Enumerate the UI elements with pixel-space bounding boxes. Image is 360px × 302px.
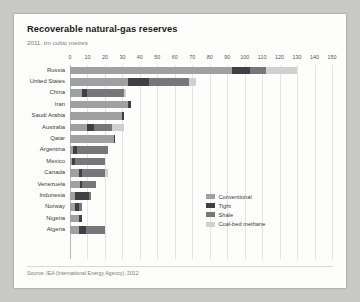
stacked-bar bbox=[70, 89, 126, 97]
bar-segment-shale bbox=[82, 181, 96, 189]
x-axis-tick-label: 20 bbox=[102, 54, 108, 60]
bar-segment-shale bbox=[87, 89, 124, 97]
source-divider bbox=[27, 266, 333, 267]
legend-label: Conventional bbox=[219, 194, 252, 200]
chart-title: Recoverable natural-gas reserves bbox=[27, 24, 177, 34]
stacked-bar bbox=[70, 124, 124, 132]
bar-row: Mexico bbox=[70, 156, 332, 167]
bar-segment-tight bbox=[232, 67, 249, 75]
x-axis: 0102030405060708090100110120130140150 bbox=[70, 54, 332, 65]
bar-segment-conventional bbox=[70, 101, 128, 109]
bar-row: Indonesia bbox=[70, 190, 332, 201]
x-axis-tick-label: 0 bbox=[69, 54, 72, 60]
x-axis-tick-label: 30 bbox=[119, 54, 125, 60]
bar-segment-coalbed bbox=[105, 169, 108, 177]
bar-segment-shale bbox=[94, 124, 111, 132]
stacked-bar bbox=[70, 67, 297, 75]
category-label: Russia bbox=[47, 67, 70, 73]
bar-segment-shale bbox=[250, 67, 266, 75]
x-axis-tick-label: 70 bbox=[189, 54, 195, 60]
source-note: Source: IEA (International Energy Agency… bbox=[27, 270, 333, 276]
legend-item: Coal-bed methane bbox=[206, 220, 265, 229]
x-axis-tick-label: 110 bbox=[258, 54, 267, 60]
category-label: Saudi Arabia bbox=[32, 112, 70, 118]
source-block: Source: IEA (International Energy Agency… bbox=[27, 266, 333, 276]
x-axis-tick-label: 150 bbox=[328, 54, 337, 60]
legend-item: Tight bbox=[206, 201, 265, 210]
bar-segment-shale bbox=[77, 146, 108, 154]
x-axis-tick-label: 80 bbox=[207, 54, 213, 60]
legend-swatch-coalbed bbox=[206, 222, 215, 227]
category-label: Qatar bbox=[50, 135, 70, 141]
bar-row: Australia bbox=[70, 122, 332, 133]
gridline bbox=[332, 65, 333, 259]
bar-row: Russia bbox=[70, 65, 332, 76]
bar-segment-conventional bbox=[70, 135, 114, 143]
x-axis-tick-label: 60 bbox=[172, 54, 178, 60]
bar-row: China bbox=[70, 88, 332, 99]
category-label: Iran bbox=[55, 101, 70, 107]
x-axis-tick-label: 10 bbox=[84, 54, 90, 60]
bar-segment-conventional bbox=[70, 67, 232, 75]
category-label: Nigeria bbox=[46, 215, 70, 221]
bar-segment-shale bbox=[89, 192, 91, 200]
bar-segment-tight bbox=[114, 135, 116, 143]
chart-legend: ConventionalTightShaleCoal-bed methane bbox=[206, 192, 265, 229]
bar-row: United States bbox=[70, 76, 332, 87]
category-label: Australia bbox=[42, 124, 70, 130]
bar-segment-tight bbox=[87, 124, 94, 132]
category-label: Venezuela bbox=[37, 181, 70, 187]
legend-item: Conventional bbox=[206, 192, 265, 201]
plot-area: 0102030405060708090100110120130140150 Ru… bbox=[70, 54, 332, 259]
bar-segment-shale bbox=[79, 203, 82, 211]
legend-label: Coal-bed methane bbox=[219, 221, 266, 227]
x-axis-tick-label: 50 bbox=[154, 54, 160, 60]
bar-segment-conventional bbox=[70, 78, 128, 86]
bar-segment-tight bbox=[79, 215, 82, 223]
bar-segment-coalbed bbox=[112, 124, 124, 132]
bar-segment-shale bbox=[82, 169, 105, 177]
category-label: United States bbox=[30, 78, 70, 84]
bar-row: Qatar bbox=[70, 133, 332, 144]
bar-segment-shale bbox=[75, 158, 105, 166]
bar-segment-conventional bbox=[70, 169, 79, 177]
bar-segment-conventional bbox=[70, 215, 79, 223]
legend-swatch-shale bbox=[206, 212, 215, 217]
bar-row: Nigeria bbox=[70, 213, 332, 224]
category-label: Argentina bbox=[40, 146, 70, 152]
bar-segment-coalbed bbox=[266, 67, 297, 75]
category-label: Canada bbox=[44, 169, 70, 175]
x-axis-tick-label: 90 bbox=[224, 54, 230, 60]
legend-swatch-conventional bbox=[206, 194, 215, 199]
stacked-bar bbox=[70, 112, 124, 120]
legend-swatch-tight bbox=[206, 203, 215, 208]
stacked-bar bbox=[70, 146, 108, 154]
stacked-bar bbox=[70, 135, 115, 143]
bar-segment-shale bbox=[86, 226, 105, 234]
bar-segment-tight bbox=[75, 192, 89, 200]
x-axis-tick-label: 120 bbox=[275, 54, 284, 60]
category-label: China bbox=[50, 89, 70, 95]
bar-row: Norway bbox=[70, 202, 332, 213]
category-label: Mexico bbox=[46, 158, 70, 164]
stacked-bar bbox=[70, 78, 196, 86]
stacked-bar bbox=[70, 226, 105, 234]
category-label: Norway bbox=[45, 203, 70, 209]
bar-segment-shale bbox=[149, 78, 189, 86]
legend-item: Shale bbox=[206, 210, 265, 219]
chart-subtitle: 2011, trn cubic metres bbox=[27, 39, 88, 46]
bar-row: Iran bbox=[70, 99, 332, 110]
x-axis-tick-label: 100 bbox=[240, 54, 249, 60]
bar-row: Saudi Arabia bbox=[70, 111, 332, 122]
stacked-bar bbox=[70, 203, 82, 211]
bar-row: Canada bbox=[70, 168, 332, 179]
category-label: Indonesia bbox=[39, 192, 70, 198]
bar-segment-tight bbox=[122, 112, 124, 120]
bar-segment-tight bbox=[128, 101, 131, 109]
bar-row: Venezuela bbox=[70, 179, 332, 190]
bar-row: Algeria bbox=[70, 225, 332, 236]
legend-label: Tight bbox=[219, 203, 231, 209]
chart-card: Recoverable natural-gas reserves 2011, t… bbox=[14, 14, 346, 288]
bar-segment-tight bbox=[128, 78, 149, 86]
bar-segment-coalbed bbox=[124, 89, 126, 97]
